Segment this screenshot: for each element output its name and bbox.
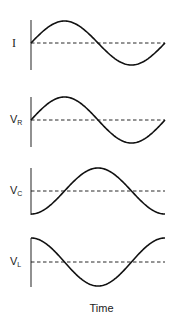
panel-v-l — [31, 238, 165, 287]
label-vr: VR — [10, 113, 22, 126]
label-current: I — [12, 36, 16, 51]
waveform-diagram — [0, 0, 173, 322]
label-vl: VL — [10, 255, 21, 268]
label-vc: VC — [10, 184, 22, 197]
x-axis-label: Time — [0, 302, 173, 314]
panel-v-r — [31, 97, 165, 147]
panel-v-c — [31, 168, 165, 215]
panel-i — [31, 20, 165, 70]
